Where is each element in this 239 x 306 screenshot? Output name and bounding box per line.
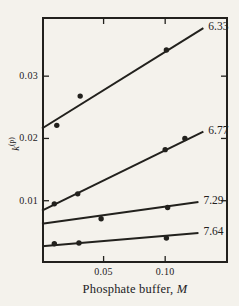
plot-area: 6.336.777.297.64	[42, 17, 228, 263]
data-point	[52, 201, 57, 206]
x-axis-label-text: Phosphate buffer,	[83, 282, 177, 296]
data-point	[164, 47, 169, 52]
x-axis-label: Phosphate buffer, M	[55, 282, 215, 297]
data-point	[77, 93, 82, 98]
data-point	[52, 241, 57, 246]
x-axis-label-unit: M	[177, 282, 188, 296]
fit-line	[42, 28, 203, 128]
plot-frame	[43, 18, 227, 262]
data-point	[182, 136, 187, 141]
data-point	[162, 147, 167, 152]
series-label: 7.29	[203, 194, 223, 206]
chart-canvas: 6.336.777.297.64	[42, 17, 228, 263]
data-point	[98, 216, 103, 221]
series-label: 6.77	[208, 124, 228, 136]
figure: 6.336.777.297.64 k(p) Phosphate buffer, …	[0, 0, 239, 306]
series-label: 6.33	[208, 20, 228, 32]
x-tick-label: 0.05	[89, 266, 119, 278]
data-point	[54, 123, 59, 128]
y-tick-label: 0.01	[8, 194, 38, 207]
series-label: 7.64	[203, 225, 223, 237]
data-point	[164, 235, 169, 240]
x-tick-label: 0.10	[150, 266, 180, 278]
y-tick-label: 0.03	[8, 69, 38, 82]
data-point	[75, 191, 80, 196]
fit-line	[42, 202, 198, 224]
y-tick-label: 0.02	[8, 131, 38, 144]
data-point	[76, 240, 81, 245]
fit-line	[42, 132, 203, 211]
y-axis-label-base: k	[10, 146, 21, 151]
data-point	[165, 205, 170, 210]
fit-line	[42, 233, 198, 246]
